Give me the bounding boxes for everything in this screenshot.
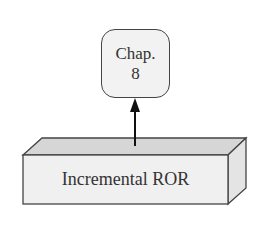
block-label: Incremental ROR bbox=[23, 155, 228, 203]
chapter-node-line1: Chap. bbox=[115, 44, 155, 64]
arrow-head-icon bbox=[130, 98, 140, 112]
chapter-node: Chap. 8 bbox=[101, 29, 170, 98]
chapter-node-line2: 8 bbox=[131, 64, 140, 84]
